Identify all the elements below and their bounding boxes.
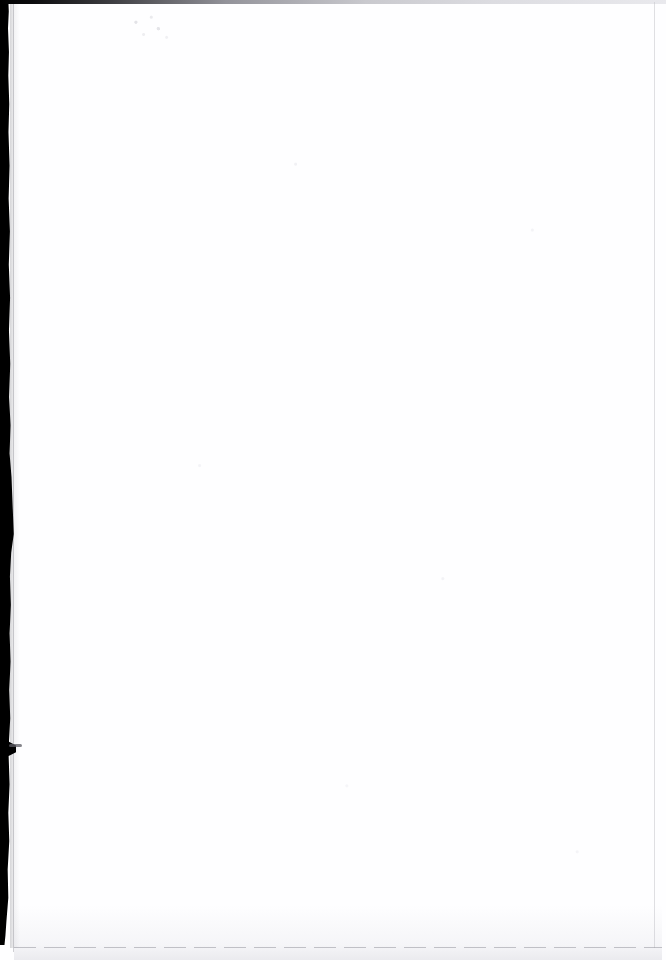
gutter-fleck	[9, 744, 22, 747]
top-edge-band	[0, 0, 666, 4]
bottom-edge-rule	[14, 947, 662, 948]
page-content-area	[48, 40, 630, 900]
scanner-speckle	[118, 10, 182, 46]
bottom-margin-wash	[14, 905, 662, 960]
gutter-shadow-halo	[10, 0, 20, 948]
scanned-page	[0, 0, 666, 960]
right-edge-rule	[654, 2, 655, 948]
